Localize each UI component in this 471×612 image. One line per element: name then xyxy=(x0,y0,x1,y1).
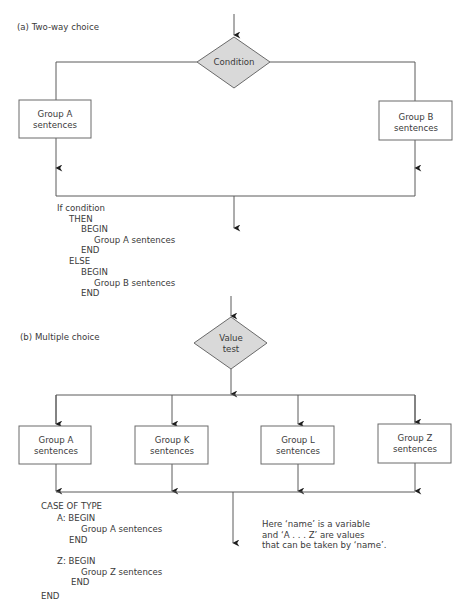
code-line: THEN xyxy=(68,214,93,224)
part-b-group-l-line2: sentences xyxy=(276,446,320,456)
code-line: BEGIN xyxy=(81,267,108,277)
part-b-group-z-line2: sentences xyxy=(393,444,437,454)
part-b-group-k-box: Group K sentences xyxy=(135,426,208,464)
part-b-decision-diamond: Value test xyxy=(194,317,267,369)
code-line: If condition xyxy=(57,203,105,213)
code-line: Z: BEGIN xyxy=(57,556,95,566)
code-line: BEGIN xyxy=(81,224,108,234)
part-a-group-b-box: Group B sentences xyxy=(379,101,452,140)
part-b-note: Here ‘name’ is a variable and ‘A . . . Z… xyxy=(262,519,386,550)
code-line: END xyxy=(81,245,100,255)
code-line: Group B sentences xyxy=(94,278,176,288)
part-b-decision-line2: test xyxy=(223,344,240,354)
code-line: ELSE xyxy=(69,256,90,266)
code-line: Group Z sentences xyxy=(81,567,163,577)
code-line: Group A sentences xyxy=(81,524,163,534)
part-b-group-k-line1: Group K xyxy=(155,435,190,445)
part-b-pseudocode: CASE OF TYPE A: BEGIN Group A sentences … xyxy=(41,501,163,601)
code-line: Group A sentences xyxy=(94,235,176,245)
part-a-label: (a) Two-way choice xyxy=(17,22,99,32)
code-line: CASE OF TYPE xyxy=(41,501,102,511)
part-a-group-b-line2: sentences xyxy=(394,123,438,133)
part-a-group-a-line1: Group A xyxy=(38,109,73,119)
part-b-decision-line1: Value xyxy=(219,333,243,343)
part-b-label: (b) Multiple choice xyxy=(20,332,100,342)
flowchart-canvas: (a) Two-way choice Condition Group A sen… xyxy=(0,0,471,612)
part-b-group-k-line2: sentences xyxy=(150,446,194,456)
part-b-group-a-box: Group A sentences xyxy=(19,426,91,464)
part-b-branch-connectors xyxy=(56,369,415,543)
code-line: END xyxy=(69,535,88,545)
note-line: that can be taken by ‘name’. xyxy=(262,540,386,550)
part-a-pseudocode: If condition THEN BEGIN Group A sentence… xyxy=(57,203,176,298)
part-a-decision-diamond: Condition xyxy=(197,37,270,88)
note-line: and ‘A . . . Z’ are values xyxy=(262,530,365,540)
part-b-group-a-line2: sentences xyxy=(34,446,78,456)
code-line: A: BEGIN xyxy=(57,513,95,523)
code-line: END xyxy=(81,288,100,298)
part-a-group-a-line2: sentences xyxy=(33,120,77,130)
part-a-group-b-line1: Group B xyxy=(399,112,434,122)
part-a-group-a-box: Group A sentences xyxy=(19,100,91,138)
code-line: END xyxy=(71,577,90,587)
note-line: Here ‘name’ is a variable xyxy=(262,519,370,529)
part-b-group-z-line1: Group Z xyxy=(398,433,433,443)
part-b-group-l-box: Group L sentences xyxy=(261,426,334,464)
code-line: END xyxy=(41,591,60,601)
part-b-group-a-line1: Group A xyxy=(39,435,74,445)
part-b-group-l-line1: Group L xyxy=(281,435,315,445)
part-a-decision-label: Condition xyxy=(213,57,254,67)
part-b-group-z-box: Group Z sentences xyxy=(378,424,451,463)
